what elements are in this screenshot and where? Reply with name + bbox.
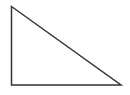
right-triangle-shape	[12, 7, 122, 86]
figure-canvas	[0, 0, 130, 95]
triangle-figure	[0, 0, 130, 95]
